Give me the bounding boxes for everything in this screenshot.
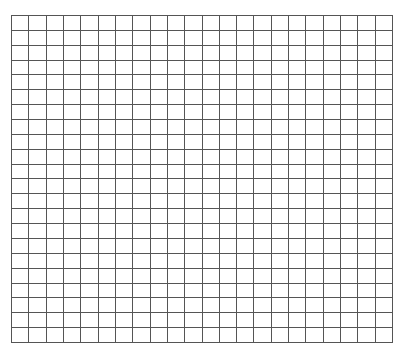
- grid-cell: [306, 31, 323, 46]
- grid-cell: [376, 90, 393, 105]
- grid-cell: [324, 120, 341, 135]
- grid-cell: [289, 179, 306, 194]
- grid-cell: [99, 224, 116, 239]
- grid-cell: [254, 209, 271, 224]
- grid-cell: [358, 90, 375, 105]
- grid-cell: [254, 75, 271, 90]
- grid-cell: [376, 284, 393, 299]
- grid-cell: [289, 46, 306, 61]
- grid-cell: [99, 298, 116, 313]
- grid-cell: [116, 328, 133, 343]
- grid-cell: [29, 75, 46, 90]
- grid-cell: [289, 90, 306, 105]
- grid-cell: [376, 179, 393, 194]
- grid-cell: [133, 165, 150, 180]
- grid-cell: [47, 194, 64, 209]
- grid-cell: [29, 224, 46, 239]
- grid-cell: [358, 135, 375, 150]
- grid-cell: [29, 61, 46, 76]
- grid-cell: [151, 165, 168, 180]
- grid-cell: [185, 46, 202, 61]
- grid-cell: [289, 16, 306, 31]
- grid-cell: [47, 46, 64, 61]
- grid-cell: [99, 120, 116, 135]
- grid-cell: [185, 75, 202, 90]
- grid-cell: [12, 16, 29, 31]
- grid-cell: [289, 75, 306, 90]
- grid-cell: [168, 31, 185, 46]
- grid-cell: [220, 298, 237, 313]
- grid-cell: [358, 269, 375, 284]
- grid-cell: [254, 328, 271, 343]
- grid-cell: [133, 120, 150, 135]
- grid-cell: [254, 179, 271, 194]
- grid-cell: [289, 239, 306, 254]
- grid-cell: [64, 75, 81, 90]
- grid-cell: [133, 269, 150, 284]
- grid-cell: [151, 75, 168, 90]
- grid-cell: [341, 179, 358, 194]
- grid-cell: [341, 150, 358, 165]
- grid-cell: [237, 224, 254, 239]
- grid-cell: [272, 105, 289, 120]
- grid-cell: [324, 298, 341, 313]
- grid-cell: [151, 16, 168, 31]
- grid-cell: [64, 209, 81, 224]
- grid-cell: [237, 284, 254, 299]
- grid-cell: [289, 254, 306, 269]
- grid-cell: [272, 120, 289, 135]
- grid-cell: [376, 209, 393, 224]
- grid-cell: [168, 224, 185, 239]
- grid-cell: [185, 179, 202, 194]
- grid-cell: [116, 194, 133, 209]
- grid-cell: [81, 328, 98, 343]
- grid-cell: [133, 284, 150, 299]
- grid-cell: [81, 239, 98, 254]
- grid-cell: [29, 120, 46, 135]
- grid-cell: [237, 105, 254, 120]
- grid-cell: [237, 269, 254, 284]
- grid-cell: [168, 105, 185, 120]
- grid-cell: [272, 298, 289, 313]
- grid-cell: [116, 298, 133, 313]
- grid-cell: [203, 46, 220, 61]
- grid-cell: [358, 75, 375, 90]
- grid-cell: [306, 61, 323, 76]
- grid-cell: [151, 120, 168, 135]
- grid-cell: [306, 224, 323, 239]
- grid-cell: [203, 298, 220, 313]
- grid-cell: [12, 135, 29, 150]
- grid-cell: [306, 298, 323, 313]
- grid-cell: [306, 150, 323, 165]
- grid-cell: [47, 150, 64, 165]
- grid-cell: [358, 284, 375, 299]
- grid-cell: [272, 254, 289, 269]
- grid-cell: [47, 179, 64, 194]
- grid-cell: [358, 16, 375, 31]
- grid-cell: [341, 61, 358, 76]
- grid-cell: [289, 194, 306, 209]
- grid-cell: [168, 239, 185, 254]
- grid-cell: [306, 135, 323, 150]
- grid-cell: [203, 105, 220, 120]
- grid-cell: [237, 239, 254, 254]
- grid-cell: [133, 135, 150, 150]
- grid-cell: [272, 284, 289, 299]
- grid-cell: [376, 328, 393, 343]
- grid-cell: [203, 328, 220, 343]
- grid-cell: [12, 313, 29, 328]
- grid-cell: [220, 16, 237, 31]
- grid-cell: [237, 328, 254, 343]
- grid-cell: [341, 269, 358, 284]
- grid-cell: [341, 46, 358, 61]
- grid-cell: [324, 179, 341, 194]
- grid-cell: [47, 313, 64, 328]
- grid-cell: [237, 90, 254, 105]
- grid-cell: [47, 16, 64, 31]
- grid-cell: [220, 254, 237, 269]
- grid-cell: [272, 328, 289, 343]
- grid-cell: [116, 150, 133, 165]
- grid-cell: [358, 209, 375, 224]
- grid-cell: [289, 284, 306, 299]
- grid-cell: [133, 31, 150, 46]
